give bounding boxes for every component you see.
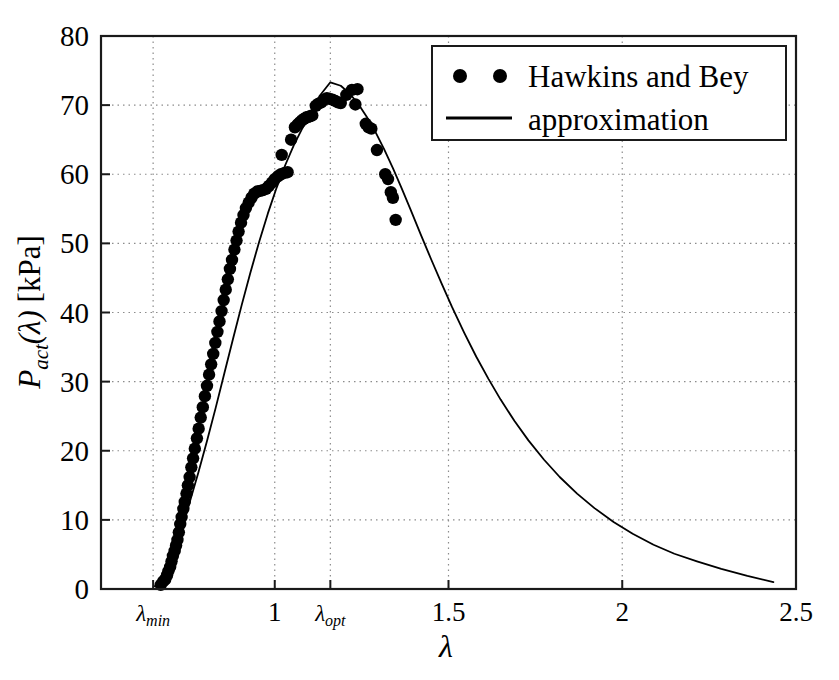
data-point-marker [365, 122, 377, 134]
data-point-marker [389, 214, 401, 226]
x-tick-label: 1.5 [432, 597, 466, 627]
data-point-marker [371, 144, 383, 156]
y-tick-label: 20 [60, 435, 89, 467]
x-axis-label-text: λ [438, 628, 453, 664]
y-tick-label: 50 [60, 227, 89, 259]
x-tick-label: 2 [616, 597, 630, 627]
legend-label-approximation: approximation [528, 102, 709, 137]
x-axis-label: λ [438, 628, 453, 664]
figure-canvas: λmin1λopt1.522.5 01020304050607080 Pact(… [0, 0, 839, 680]
data-point-marker [203, 369, 215, 381]
data-point-marker [199, 390, 211, 402]
data-point-marker [285, 133, 297, 145]
data-point-marker [195, 411, 207, 423]
data-point-marker [189, 442, 201, 454]
data-point-marker [276, 149, 288, 161]
data-point-marker [213, 315, 225, 327]
data-point-marker [211, 326, 223, 338]
x-tick-label: 1 [268, 597, 282, 627]
data-point-marker [351, 83, 363, 95]
data-point-marker [226, 254, 238, 266]
y-tick-label: 70 [60, 89, 89, 121]
data-point-marker [281, 166, 293, 178]
legend-marker-dot-1 [453, 69, 467, 83]
data-point-marker [220, 283, 232, 295]
y-tick-label: 60 [60, 158, 89, 190]
y-tick-label: 10 [60, 504, 89, 536]
data-point-marker [387, 192, 399, 204]
y-tick-label: 80 [60, 20, 89, 52]
y-tick-label: 30 [60, 366, 89, 398]
data-point-marker [192, 422, 204, 434]
data-point-marker [222, 273, 234, 285]
x-tick-label: 2.5 [779, 597, 813, 627]
legend-marker-dot-2 [493, 69, 507, 83]
data-point-marker [209, 337, 221, 349]
data-point-marker [382, 173, 394, 185]
y-tick-label: 40 [60, 297, 89, 329]
chart-plot-area: λmin1λopt1.522.5 01020304050607080 Pact(… [0, 0, 839, 680]
data-point-marker [201, 380, 213, 392]
data-point-marker [205, 358, 217, 370]
y-tick-labels-group: 01020304050607080 [60, 20, 89, 605]
data-point-marker [349, 98, 361, 110]
y-tick-label: 0 [75, 573, 90, 605]
chart-legend[interactable]: Hawkins and Bey approximation [432, 46, 786, 140]
data-point-marker [217, 294, 229, 306]
data-point-marker [197, 401, 209, 413]
legend-label-hawkins-and-bey: Hawkins and Bey [528, 59, 749, 94]
data-point-marker [215, 305, 227, 317]
data-point-marker [207, 348, 219, 360]
